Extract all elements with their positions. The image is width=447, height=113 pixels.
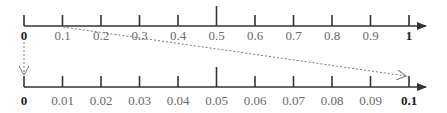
bottom-axis-label: 0.05	[205, 94, 228, 107]
bottom-axis-label: 0.07	[282, 94, 305, 107]
top-axis-label: 0.2	[93, 29, 109, 42]
top-axis-label: 0.3	[131, 29, 147, 42]
top-axis-label: 0.1	[54, 29, 70, 42]
bottom-axis-label: 0.09	[359, 94, 382, 107]
number-line-diagram: 00.10.20.30.40.50.60.70.80.91 00.010.020…	[0, 0, 447, 113]
top-axis-label: 0.6	[247, 29, 263, 42]
bottom-axis-label: 0.04	[167, 94, 190, 107]
bottom-axis-label: 0	[21, 94, 28, 107]
top-axis-label: 0.4	[170, 29, 186, 42]
bottom-axis-label: 0.02	[90, 94, 113, 107]
top-axis-label: 0.8	[324, 29, 340, 42]
top-axis	[24, 6, 426, 26]
bottom-axis-label: 0.03	[128, 94, 151, 107]
bottom-axis-label: 0.01	[51, 94, 74, 107]
bottom-axis-label: 0.1	[401, 94, 417, 107]
tenth-connector-arrow	[63, 27, 406, 76]
bottom-axis-label: 0.06	[244, 94, 267, 107]
bottom-axis-label: 0.08	[321, 94, 344, 107]
top-axis-label: 0.7	[285, 29, 301, 42]
top-axis-label: 1	[406, 29, 413, 42]
top-axis-label: 0.9	[362, 29, 378, 42]
top-axis-label: 0.5	[208, 29, 224, 42]
top-axis-label: 0	[21, 29, 28, 42]
